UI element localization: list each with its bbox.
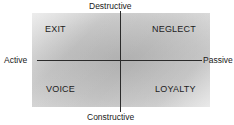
axis-label-destructive: Destructive [89, 2, 132, 11]
quadrant-label-exit: EXIT [45, 25, 66, 34]
quadrant-label-loyalty: LOYALTY [155, 85, 196, 94]
vertical-axis-line [120, 11, 121, 112]
axis-label-active: Active [4, 56, 27, 65]
quadrant-label-neglect: NEGLECT [152, 25, 196, 34]
quadrant-diagram: Destructive Constructive Active Passive … [0, 0, 234, 125]
axis-label-passive: Passive [203, 56, 233, 65]
axis-label-constructive: Constructive [87, 113, 134, 122]
quadrant-label-voice: VOICE [46, 85, 75, 94]
